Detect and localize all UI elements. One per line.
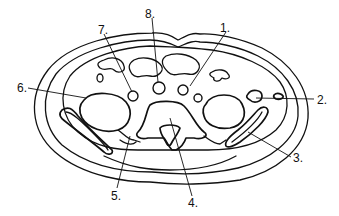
label-7: 7. [98, 24, 108, 36]
bowel-loop-small [97, 74, 103, 82]
leader-2 [256, 98, 314, 99]
bowel-loop-left [98, 58, 124, 72]
label-2: 2. [317, 94, 327, 106]
vessel-7 [128, 91, 138, 101]
bowel-loop-right [210, 70, 229, 81]
colon-right [247, 90, 262, 102]
label-6: 6. [17, 82, 27, 94]
label-5: 5. [111, 190, 121, 202]
vessel-small-right [194, 94, 202, 102]
cross-section-diagram [0, 0, 339, 216]
iliacus-right [203, 95, 244, 128]
fascia-outline [45, 40, 298, 174]
leader-8 [152, 18, 158, 82]
sacroiliac-right [204, 136, 226, 144]
vessel-8-left [153, 82, 165, 94]
label-8: 8. [145, 8, 155, 20]
label-1: 1. [220, 22, 230, 34]
posterior-muscle [104, 156, 236, 170]
label-4: 4. [188, 197, 198, 209]
vessel-8-right [178, 85, 188, 95]
sacroiliac-left [118, 130, 140, 144]
label-3: 3. [293, 152, 303, 164]
bowel-loop-center-right [162, 54, 199, 75]
